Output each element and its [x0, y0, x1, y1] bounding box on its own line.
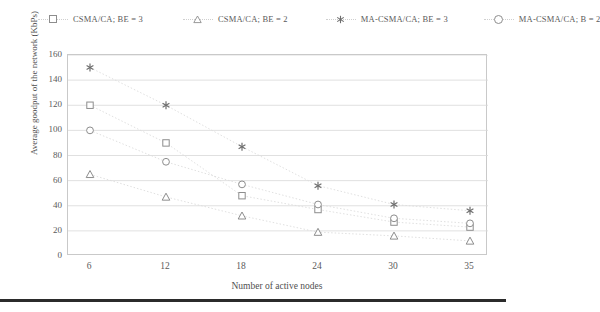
y-tick-label: 40 — [32, 200, 62, 210]
y-axis-ticks: 020406080100120140160 — [28, 54, 62, 255]
x-tick-label: 30 — [388, 261, 398, 271]
x-tick-label: 6 — [87, 261, 92, 271]
x-axis-label: Number of active nodes — [67, 281, 487, 291]
legend-marker-circle-icon — [484, 13, 514, 25]
legend-entry-csma-be2: CSMA/CA; BE = 2 — [183, 13, 288, 25]
x-axis-ticks: 61218243035 — [67, 261, 487, 275]
x-tick-label: 12 — [160, 261, 170, 271]
x-tick-label: 18 — [236, 261, 246, 271]
legend-entry-csma-be3: CSMA/CA; BE = 3 — [38, 13, 143, 25]
x-tick-label: 24 — [312, 261, 322, 271]
plot-svg — [68, 55, 488, 256]
y-tick-label: 80 — [32, 150, 62, 160]
legend-label: CSMA/CA; BE = 3 — [73, 14, 143, 24]
plot-area — [67, 54, 487, 255]
legend-marker-square-icon — [38, 13, 68, 25]
legend-entry-ma-csma-b2: MA-CSMA/CA; B = 2 — [484, 13, 600, 25]
y-tick-label: 120 — [32, 99, 62, 109]
y-tick-label: 20 — [32, 225, 62, 235]
y-tick-label: 140 — [32, 74, 62, 84]
legend-marker-star-icon — [326, 13, 356, 25]
y-tick-label: 100 — [32, 124, 62, 134]
bottom-divider — [0, 299, 506, 302]
y-tick-label: 0 — [32, 250, 62, 260]
legend-marker-triangle-icon — [183, 13, 213, 25]
legend-label: CSMA/CA; BE = 2 — [218, 14, 288, 24]
legend-label: MA-CSMA/CA; B = 2 — [519, 14, 600, 24]
legend-label: MA-CSMA/CA; BE = 3 — [361, 14, 448, 24]
legend-entry-ma-csma-be3: MA-CSMA/CA; BE = 3 — [326, 13, 448, 25]
x-tick-label: 35 — [464, 261, 474, 271]
y-tick-label: 60 — [32, 175, 62, 185]
chart-legend: CSMA/CA; BE = 3 CSMA/CA; BE = 2 — [30, 11, 490, 27]
y-tick-label: 160 — [32, 49, 62, 59]
